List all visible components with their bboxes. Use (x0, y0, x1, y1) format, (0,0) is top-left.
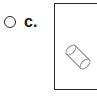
tilted-cylinder-icon (62, 41, 94, 73)
option-letter-label: c. (24, 13, 37, 31)
radio-button-option-c[interactable] (4, 16, 16, 28)
answer-option-panel: c. (0, 0, 97, 99)
